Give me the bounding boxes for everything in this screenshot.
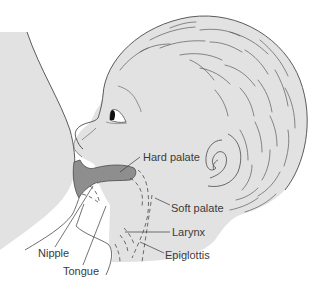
label-epiglottis: Epiglottis bbox=[165, 250, 210, 261]
label-tongue: Tongue bbox=[63, 266, 99, 277]
label-larynx: Larynx bbox=[172, 227, 205, 238]
breastfeeding-anatomy-diagram: Hard palate Soft palate Larynx Epiglotti… bbox=[0, 0, 322, 293]
breast-shape bbox=[0, 32, 75, 250]
label-nipple: Nipple bbox=[38, 248, 69, 259]
label-soft-palate: Soft palate bbox=[171, 203, 224, 214]
label-hard-palate: Hard palate bbox=[143, 152, 200, 163]
